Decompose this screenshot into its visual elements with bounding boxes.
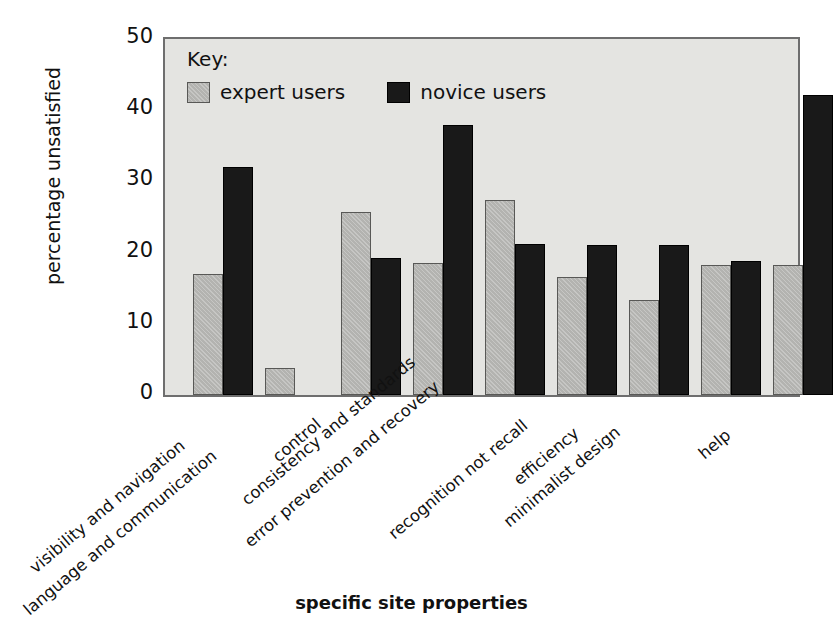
y-tick-label: 40 [105, 97, 153, 118]
y-tick-label: 20 [105, 240, 153, 261]
legend-label-novice: novice users [420, 80, 546, 104]
legend-entry-novice: novice users [387, 80, 546, 104]
bar-expert [193, 274, 223, 395]
bar-expert [773, 265, 803, 395]
y-tick-label: 0 [105, 382, 153, 403]
bar-expert [413, 263, 443, 395]
y-tick-label: 50 [105, 26, 153, 47]
y-tick-label: 10 [105, 311, 153, 332]
bar-expert [701, 265, 731, 395]
legend-entry-expert: expert users [187, 80, 345, 104]
bar-novice [731, 261, 761, 395]
bar-expert [341, 212, 371, 395]
x-axis-title: specific site properties [0, 592, 823, 613]
bar-novice [659, 245, 689, 395]
x-tick-label: help [695, 426, 735, 463]
bar-novice [515, 244, 545, 395]
bar-novice [803, 95, 833, 395]
bar-expert [265, 368, 295, 395]
y-axis-title: percentage unsatisfied [42, 61, 64, 291]
legend-swatch-novice-icon [387, 82, 410, 103]
bar-novice [443, 125, 473, 395]
bar-expert [485, 200, 515, 395]
legend-label-expert: expert users [220, 80, 345, 104]
bar-novice [223, 167, 253, 395]
chart-legend: Key: expert users novice users [187, 47, 588, 104]
bar-expert [557, 277, 587, 395]
legend-entries: expert users novice users [187, 80, 588, 104]
plot-area: Key: expert users novice users [163, 37, 800, 397]
legend-swatch-expert-icon [187, 82, 210, 103]
bar-novice [587, 245, 617, 395]
bar-expert [629, 300, 659, 395]
y-tick-label: 30 [105, 168, 153, 189]
legend-title: Key: [187, 47, 588, 71]
